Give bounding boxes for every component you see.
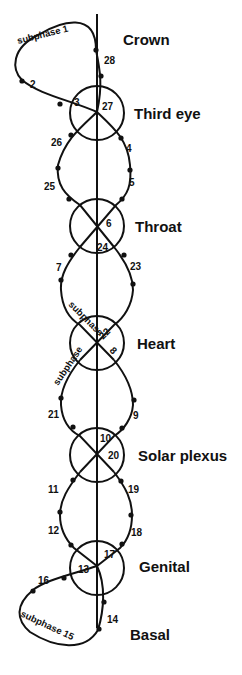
chakra-phase-diagram: Crown Third eye Throat Heart Solar plexu… bbox=[0, 0, 242, 675]
num-19: 19 bbox=[128, 484, 140, 495]
num-25: 25 bbox=[44, 181, 56, 192]
num-20: 20 bbox=[108, 450, 120, 461]
dot-16 bbox=[30, 588, 35, 593]
num-10: 10 bbox=[100, 433, 112, 444]
dot-25 bbox=[55, 165, 60, 170]
dot-11 bbox=[70, 477, 75, 482]
dot-7b bbox=[58, 277, 63, 282]
loop-solar-genital-left bbox=[60, 472, 97, 566]
dot-7 bbox=[68, 252, 73, 257]
dot-1 bbox=[93, 47, 98, 52]
dot-9 bbox=[131, 397, 136, 402]
dot-2 bbox=[19, 78, 24, 83]
dot-15 bbox=[96, 626, 101, 631]
num-23: 23 bbox=[130, 261, 142, 272]
dot-9b bbox=[119, 425, 124, 430]
subphase-top-label: subphase 1 bbox=[16, 22, 70, 45]
loop-heart-solar-right bbox=[80, 360, 133, 472]
num-28: 28 bbox=[104, 55, 116, 66]
label-solar-plexus: Solar plexus bbox=[138, 447, 227, 464]
dot-26 bbox=[68, 132, 73, 137]
label-genital: Genital bbox=[139, 558, 190, 575]
dot-14 bbox=[101, 599, 106, 604]
dot-13 bbox=[61, 575, 66, 580]
label-basal: Basal bbox=[130, 626, 170, 643]
label-throat: Throat bbox=[135, 218, 182, 235]
label-third-eye: Third eye bbox=[134, 105, 201, 122]
dot-12b bbox=[68, 542, 73, 547]
num-11: 11 bbox=[48, 484, 59, 495]
dot-25b bbox=[66, 196, 71, 201]
dot-4 bbox=[118, 135, 123, 140]
num-6: 6 bbox=[106, 218, 112, 229]
dot-3 bbox=[57, 101, 62, 106]
num-5: 5 bbox=[129, 177, 135, 188]
subphase-bottom-label: subphase 15 bbox=[19, 608, 76, 643]
num-7: 7 bbox=[56, 262, 62, 273]
dot-19 bbox=[118, 478, 123, 483]
num-2: 2 bbox=[30, 79, 36, 90]
num-9: 9 bbox=[133, 410, 139, 421]
num-14: 14 bbox=[107, 614, 119, 625]
loop-throat-heart-right bbox=[80, 247, 133, 360]
label-heart: Heart bbox=[137, 335, 175, 352]
num-27: 27 bbox=[102, 101, 114, 112]
num-17: 17 bbox=[104, 549, 116, 560]
label-crown: Crown bbox=[123, 31, 170, 48]
num-26: 26 bbox=[51, 137, 63, 148]
dot-18b bbox=[119, 541, 124, 546]
dot-28 bbox=[98, 73, 103, 78]
num-18: 18 bbox=[131, 527, 143, 538]
dot-18 bbox=[128, 512, 133, 517]
dot-5 bbox=[127, 167, 132, 172]
dot-23 bbox=[121, 252, 126, 257]
loop-heart-solar-left bbox=[61, 360, 114, 472]
dot-21b bbox=[70, 424, 75, 429]
dot-12 bbox=[57, 509, 62, 514]
num-13: 13 bbox=[78, 564, 90, 575]
num-21: 21 bbox=[48, 409, 60, 420]
num-4: 4 bbox=[126, 143, 132, 154]
num-12: 12 bbox=[48, 525, 60, 536]
dot-21 bbox=[58, 395, 63, 400]
dot-23b bbox=[130, 281, 135, 286]
num-24: 24 bbox=[97, 242, 109, 253]
num-16: 16 bbox=[38, 575, 50, 586]
dot-5b bbox=[119, 196, 124, 201]
num-3: 3 bbox=[74, 97, 80, 108]
